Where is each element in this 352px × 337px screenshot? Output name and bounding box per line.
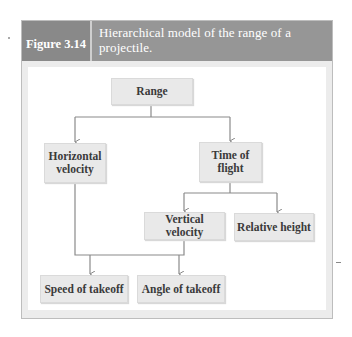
scan-mark (336, 262, 341, 263)
node-relative-height: Relative height (234, 213, 314, 241)
node-angle-of-takeoff: Angle of takeoff (137, 275, 225, 303)
node-speed-of-takeoff: Speed of takeoff (40, 275, 128, 303)
node-range: Range (111, 78, 193, 105)
node-horizontal-velocity: Horizontal velocity (44, 143, 106, 183)
node-vertical-velocity: Vertical velocity (144, 212, 225, 240)
node-time-of-flight: Time of flight (199, 142, 262, 182)
